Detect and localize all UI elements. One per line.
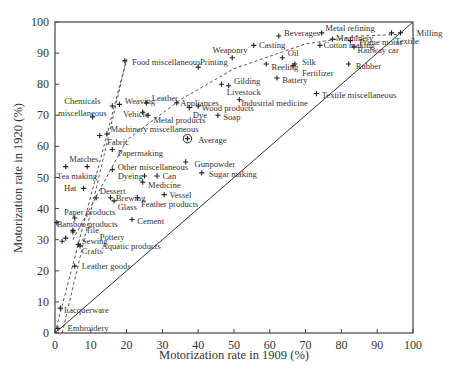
plus-marker-icon [346,61,351,66]
plus-marker-icon [63,164,68,169]
point-label: Tea making [57,171,98,181]
data-point: Matches [69,154,99,169]
point-label: Embroidery [68,323,110,333]
point-label: Vessel [170,190,193,200]
point-label: Railway car [358,45,399,55]
point-label: Weaponry [213,45,249,55]
data-points: Food miscellaneousChemicalsmiscellaneous… [54,23,443,333]
data-point: Crafts [77,243,103,255]
plus-marker-icon [314,91,319,96]
point-label: Sugar making [209,169,258,179]
data-point: Chemicalsmiscellaneous [58,96,107,119]
point-label: Food miscellaneous [132,57,201,67]
y-tick-label: 90 [37,46,49,60]
point-label: Crafts [82,246,104,256]
point-label: Glass [118,202,138,212]
plus-marker-icon [85,164,90,169]
data-point: Industrial medicine [237,97,308,108]
point-label: Industrial medicine [241,98,308,108]
plus-marker-icon [251,43,256,48]
point-label: Papermaking [118,148,164,158]
data-point: Gilding [219,76,261,87]
y-axis-title: Motorization rate in 1920 (%) [11,103,25,253]
plus-marker-icon [280,55,285,60]
data-point: Gunpowder [183,159,235,169]
plus-marker-icon [215,113,220,118]
y-tick-label: 70 [37,108,49,122]
point-label: Silk [302,57,317,67]
y-tick-label: 10 [37,295,49,309]
plus-marker-icon [122,58,127,63]
x-tick-label: 100 [404,338,422,352]
point-label: Leather goods [82,261,132,271]
plus-marker-icon [199,170,204,175]
point-label: Leather [152,93,178,103]
data-point: Cement [129,216,164,226]
point-label: Soap [223,112,240,122]
plus-marker-icon [274,75,279,80]
plus-marker-icon [81,186,86,191]
x-tick-label: 90 [371,338,383,352]
data-point: Sugar making [199,169,257,179]
x-tick-label: 0 [52,338,58,352]
point-label: Paper products [64,207,116,217]
plus-marker-icon [264,61,269,66]
plus-marker-icon [230,55,235,60]
y-tick-label: 80 [37,77,49,91]
data-point: Average [183,134,227,145]
y-tick-label: 100 [31,15,49,29]
point-label: Machinery miscellaneous [110,124,199,134]
point-label: Hat [64,183,77,193]
point-label: Rubber [356,61,381,71]
plus-marker-icon [117,102,122,107]
x-axis-title: Motorization rate in 1909 (%) [159,348,309,362]
plus-marker-icon [219,82,224,87]
plus-marker-icon [154,173,159,178]
plus-marker-icon [185,136,190,141]
point-label: Livestock [227,87,262,97]
data-point: Lacquerware [58,305,109,315]
point-label: Cement [137,216,164,226]
data-point: Soap [215,112,240,122]
point-label: Textile miscellaneous [322,90,397,100]
y-tick-label: 60 [37,139,49,153]
plus-marker-icon [63,236,68,241]
data-point: Papermaking [110,147,164,158]
plus-marker-icon [110,167,115,172]
plus-marker-icon [55,326,60,331]
plus-marker-icon [110,147,115,152]
data-point: Fabric [97,133,129,147]
data-point: Dyeing [118,171,147,181]
data-point: Hat [64,183,86,193]
point-label: Oil [288,48,300,58]
point-label: Lacquerware [64,305,109,315]
x-tick-label: 10 [85,338,97,352]
data-point: Battery [274,75,308,85]
point-label: Fabric [107,137,129,147]
x-tick-label: 20 [121,338,133,352]
point-label: Chemicalsmiscellaneous [58,96,107,118]
plus-marker-icon [317,43,322,48]
scatter-chart: 0102030405060708090100 01020304050607080… [0,0,455,379]
point-label: Gunpowder [195,159,236,169]
point-label: Gilding [234,76,261,86]
data-point: Printing [196,57,229,69]
y-tick-label: 20 [37,264,49,278]
plus-marker-icon [162,192,167,197]
point-label: Casting [259,40,286,50]
data-point: Reeling [264,61,299,72]
point-label: Aquatic products [102,241,162,251]
point-label: Beverages [284,28,320,38]
data-point: Vehicle [123,109,149,119]
plus-marker-icon [129,217,134,222]
point-label: Tile [85,225,99,235]
point-label: Textile [395,36,419,46]
data-point: Rubber [346,61,381,71]
point-label: Matches [69,154,99,164]
data-point: Food miscellaneous [122,57,201,67]
point-label: Printing [200,57,228,67]
data-point: Casting [251,40,286,50]
x-tick-label: 80 [335,338,347,352]
point-label: Average [198,135,227,145]
data-point: Tea making [57,164,98,181]
